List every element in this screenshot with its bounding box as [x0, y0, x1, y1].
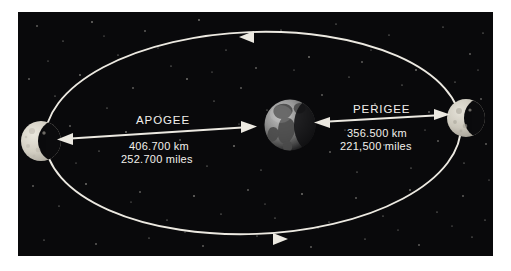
orbit-diagram-svg: APOGEE 406.700 km 252.700 miles PERIGEE …: [0, 0, 511, 271]
starfield-panel: [18, 12, 493, 256]
apogee-label: APOGEE: [136, 114, 190, 126]
apogee-distance-miles: 252.700 miles: [121, 153, 193, 165]
perigee-distance-km: 356.500 km: [347, 127, 407, 139]
apogee-distance-km: 406.700 km: [129, 140, 189, 152]
orbit-diagram-figure: APOGEE 406.700 km 252.700 miles PERIGEE …: [0, 0, 511, 271]
perigee-label: PERIGEE: [353, 103, 410, 115]
perigee-distance-miles: 221,500 miles: [340, 140, 412, 152]
